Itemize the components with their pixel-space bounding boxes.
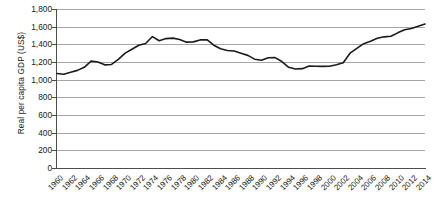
y-axis-tick-mark (52, 9, 57, 10)
y-axis-tick-mark (52, 27, 57, 28)
y-axis-tick-mark (52, 115, 57, 116)
y-axis-tick-mark (52, 62, 57, 63)
y-axis-tick-mark (52, 80, 57, 81)
y-axis-tick-mark (52, 97, 57, 98)
x-axis-tick-labels: 1960196219641966196819701972197419761978… (0, 0, 443, 204)
chart-container: Real per capita GDP (US$) 1,8001,6001,40… (0, 0, 443, 204)
y-axis-tick-mark (52, 44, 57, 45)
y-axis-tick-mark (52, 150, 57, 151)
y-axis-tick-mark (52, 133, 57, 134)
y-axis-tick-mark (52, 168, 57, 169)
